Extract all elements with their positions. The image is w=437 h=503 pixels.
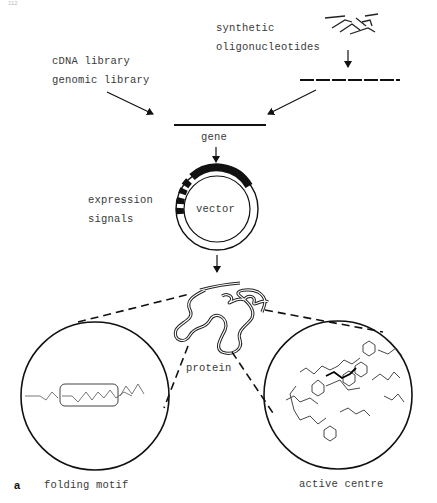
panel-label: a bbox=[14, 479, 20, 491]
expression-label: expression bbox=[88, 194, 153, 206]
vector-label: vector bbox=[196, 203, 235, 215]
oligonucleotides-label: oligonucleotides bbox=[216, 41, 320, 53]
signals-label: signals bbox=[88, 213, 134, 225]
gene-label: gene bbox=[201, 131, 227, 143]
folding-motif-circle bbox=[21, 322, 169, 470]
cdna-library-label: cDNA library bbox=[52, 55, 130, 67]
oligonucleotide-fragments-icon bbox=[325, 14, 378, 34]
active-centre-label: active centre bbox=[299, 478, 384, 490]
protein-label: protein bbox=[186, 362, 232, 374]
active-centre-circle bbox=[264, 321, 412, 469]
arrow-library-to-gene bbox=[107, 92, 153, 114]
synthetic-label: synthetic bbox=[216, 22, 275, 34]
arrow-oligo-to-gene bbox=[268, 90, 316, 114]
folding-motif-label: folding motif bbox=[44, 479, 129, 491]
folding-motif-structure-icon bbox=[25, 384, 144, 406]
genomic-library-label: genomic library bbox=[52, 74, 150, 86]
active-centre-structure-icon bbox=[286, 341, 404, 441]
